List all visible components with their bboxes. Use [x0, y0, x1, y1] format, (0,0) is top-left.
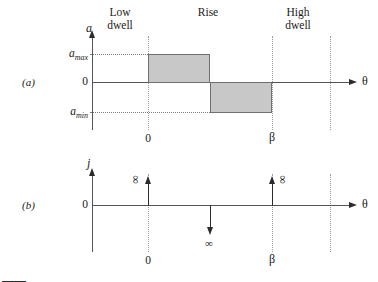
region-label-high-dwell: High dwell	[285, 6, 311, 32]
x-axis-label-theta-a: θ	[362, 75, 368, 88]
impulse-at-midpoint-magnitude: ∞	[205, 237, 213, 249]
y-tick-label-a-max-sub: max	[75, 53, 88, 62]
y-tick-label-a-min: amin	[70, 105, 88, 120]
y-axis-a	[92, 38, 93, 130]
acceleration-jerk-figure: Low dwell Rise High dwell (a) a θ amax 0…	[0, 0, 378, 282]
impulse-at-beta-stem	[272, 183, 273, 206]
region-label-low-dwell-line1: Low	[107, 6, 133, 19]
region-label-rise: Rise	[198, 6, 218, 19]
y-axis-arrow-a-icon	[89, 30, 95, 38]
region-label-high-dwell-line2: dwell	[285, 19, 311, 32]
x-tick-label-a-zero: 0	[145, 132, 151, 145]
y-tick-label-a-zero: 0	[82, 75, 88, 88]
y-tick-label-a-min-sub: min	[76, 111, 88, 120]
guide-line-theta-end-a	[330, 36, 331, 130]
impulse-at-zero-stem	[148, 183, 149, 206]
x-axis-b	[92, 205, 350, 206]
x-tick-label-b-beta: β	[269, 253, 275, 266]
impulse-at-midpoint-stem	[210, 205, 211, 228]
panel-tag-a: (a)	[22, 76, 35, 89]
region-label-rise-line1: Rise	[198, 6, 218, 19]
y-tick-label-b-zero: 0	[82, 198, 88, 211]
panel-tag-b: (b)	[22, 199, 35, 212]
impulse-at-beta-magnitude: ∞	[275, 175, 290, 184]
x-axis-arrow-b-icon	[349, 202, 357, 208]
figure-caption-partial: ——	[2, 274, 42, 282]
y-tick-label-a-min-base: a	[70, 105, 76, 117]
region-label-high-dwell-line1: High	[285, 6, 311, 19]
region-label-low-dwell: Low dwell	[107, 6, 133, 32]
x-tick-label-a-beta: β	[269, 131, 275, 144]
guide-line-theta-end-b	[330, 174, 331, 252]
guide-line-theta-zero-a	[148, 36, 149, 130]
y-axis-b	[92, 176, 93, 252]
guide-line-theta-beta-a	[272, 36, 273, 130]
impulse-at-midpoint-arrowhead-icon	[207, 227, 213, 235]
guide-line-a-max	[90, 54, 152, 55]
x-axis-arrow-a-icon	[349, 79, 357, 85]
y-axis-arrow-b-icon	[89, 168, 95, 176]
positive-accel-block	[148, 54, 210, 83]
impulse-at-zero-magnitude: ∞	[128, 175, 143, 184]
y-tick-label-a-max: amax	[69, 47, 88, 62]
guide-line-a-min	[90, 112, 214, 113]
x-tick-label-b-zero: 0	[145, 254, 151, 267]
region-label-low-dwell-line2: dwell	[107, 19, 133, 32]
impulse-at-zero-arrowhead-icon	[145, 176, 151, 184]
x-axis-label-theta-b: θ	[362, 198, 368, 211]
y-tick-label-a-max-base: a	[69, 47, 75, 59]
negative-accel-block	[210, 82, 272, 113]
